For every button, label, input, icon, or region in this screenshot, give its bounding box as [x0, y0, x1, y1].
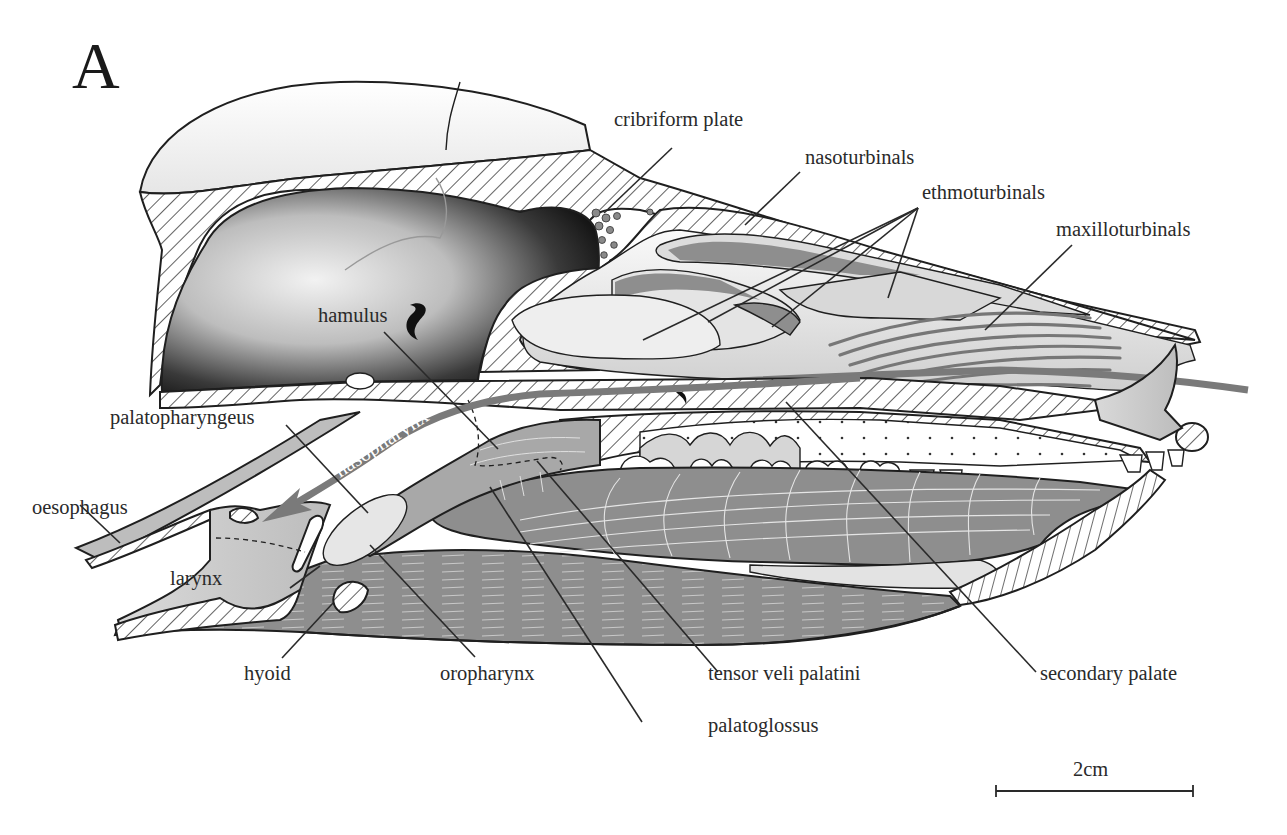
label-oropharynx: oropharynx	[440, 662, 535, 685]
label-ethmoturbinals: ethmoturbinals	[922, 181, 1045, 203]
label-maxilloturbinals: maxilloturbinals	[1056, 218, 1190, 240]
label-palatopharyngeus: palatopharyngeus	[110, 406, 255, 429]
scale-bar: 2cm	[996, 758, 1193, 797]
label-hamulus: hamulus	[318, 304, 387, 326]
label-secondary-palate: secondary palate	[1040, 662, 1177, 685]
label-tensor-veli-palatini: tensor veli palatini	[708, 662, 861, 685]
panel-letter: A	[72, 29, 120, 102]
label-larynx: larynx	[170, 567, 222, 590]
label-cribriform-plate: cribriform plate	[614, 108, 743, 131]
label-oesophagus: oesophagus	[32, 496, 128, 519]
label-palatoglossus: palatoglossus	[708, 714, 818, 737]
hard-palate-bone	[160, 378, 1100, 420]
anatomical-diagram: A	[0, 0, 1287, 835]
skull-illustration	[76, 82, 1248, 645]
label-hyoid: hyoid	[244, 662, 291, 685]
label-nasoturbinals: nasoturbinals	[805, 146, 914, 168]
scale-bar-label: 2cm	[1073, 758, 1108, 780]
